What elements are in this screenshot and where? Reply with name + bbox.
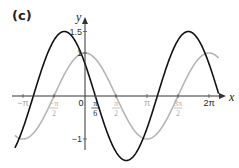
x-tick-label: 0	[78, 98, 83, 108]
x-tick-label: π	[114, 99, 118, 108]
y-tick-label: 1	[77, 48, 82, 58]
x-tick-label: 6	[93, 109, 97, 118]
x-tick-label: π	[93, 99, 97, 108]
y-axis-label: y	[75, 10, 82, 24]
x-axis-arrow-icon	[219, 93, 226, 99]
chart-plot: xy−π−π20π6π2π3π22π1.51−1	[0, 0, 239, 168]
x-tick-label: 2π	[203, 98, 214, 108]
y-tick-label: 1.5	[69, 27, 82, 37]
x-tick-label: 2	[176, 109, 180, 118]
x-axis-label: x	[228, 90, 235, 104]
x-tick-label: 2	[52, 109, 56, 118]
x-tick-label: 2	[114, 109, 118, 118]
x-tick-label: 3π	[174, 99, 182, 108]
x-tick-label: −π	[50, 99, 59, 108]
x-tick-label: −π	[17, 98, 28, 108]
x-tick-label: π	[144, 98, 150, 108]
y-axis-arrow-icon	[82, 17, 88, 24]
y-tick-label: −1	[72, 134, 82, 144]
